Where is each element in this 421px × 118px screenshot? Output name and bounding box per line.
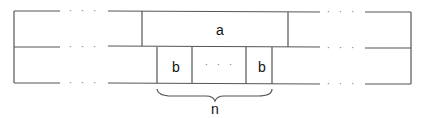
ellipsis-top-left: · · · (69, 5, 100, 16)
label-a: a (216, 22, 224, 38)
ellipsis-mid-left: · · · (69, 41, 100, 52)
top-line-middle (108, 11, 320, 12)
ellipsis-top-right: · · · (327, 6, 358, 17)
label-b-last: b (258, 59, 266, 75)
bottom-line-middle (108, 83, 320, 84)
brace-under-b-boxes (157, 89, 272, 101)
label-n: n (211, 101, 219, 117)
ellipsis-bottom-right: · · · (327, 78, 358, 89)
ellipsis-mid-right: · · · (327, 42, 358, 53)
ellipsis-bottom-left: · · · (69, 77, 100, 88)
label-b-ellipsis: · · · (205, 59, 236, 70)
diagram-canvas: · · · · · · · · · · · · · · · · · · a b … (0, 0, 421, 118)
label-b-first: b (172, 59, 180, 75)
